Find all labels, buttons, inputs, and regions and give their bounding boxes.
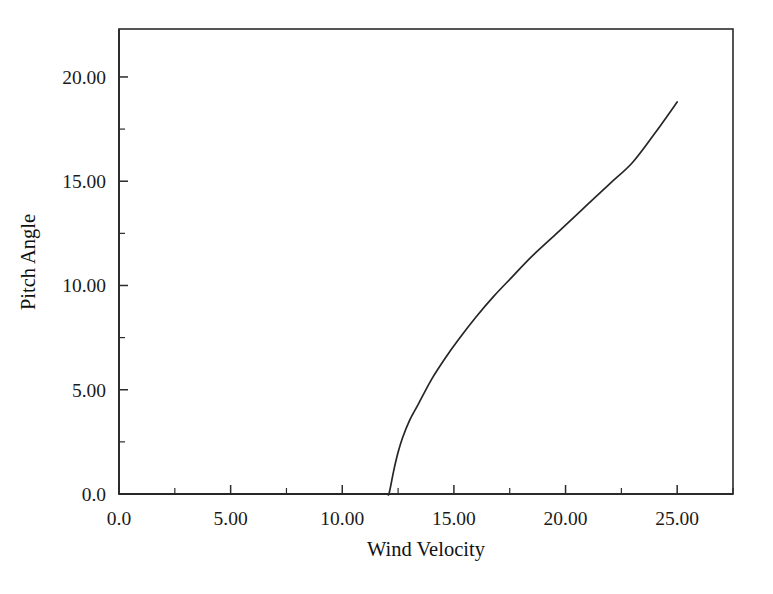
x-tick-label: 0.0 (107, 508, 131, 529)
x-tick-label: 25.00 (655, 508, 699, 529)
y-axis-title: Pitch Angle (17, 214, 40, 310)
y-tick-label: 20.00 (62, 67, 106, 88)
x-tick-label: 15.00 (432, 508, 476, 529)
x-tick-label: 20.00 (544, 508, 588, 529)
y-tick-label: 15.00 (62, 171, 106, 192)
x-axis-title: Wind Velocity (367, 538, 486, 561)
x-tick-label: 5.00 (214, 508, 248, 529)
x-tick-label: 10.00 (320, 508, 364, 529)
chart-page: 0.05.0010.0015.0020.0025.00 0.05.0010.00… (0, 0, 773, 594)
y-tick-label: 10.00 (62, 275, 106, 296)
chart-background (0, 0, 773, 594)
y-tick-label: 0.0 (82, 484, 106, 505)
pitch-angle-vs-wind-velocity-chart: 0.05.0010.0015.0020.0025.00 0.05.0010.00… (0, 0, 773, 594)
y-tick-label: 5.00 (72, 380, 106, 401)
